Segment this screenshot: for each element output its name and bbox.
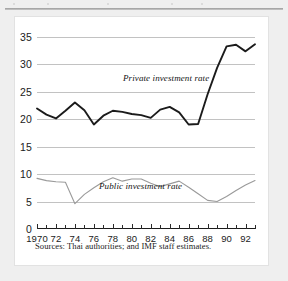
caption-remnant bbox=[4, 1, 284, 8]
series-label-private: Private investment rate bbox=[123, 73, 209, 83]
x-axis-tick bbox=[179, 225, 180, 229]
series-label-public: Public investment rate bbox=[99, 181, 182, 191]
x-axis-line bbox=[37, 228, 255, 229]
x-axis-tick bbox=[246, 224, 247, 229]
x-axis-tick bbox=[198, 225, 199, 229]
x-axis-tick bbox=[84, 225, 85, 229]
x-axis-tick bbox=[227, 224, 228, 229]
y-axis-tick-label: 30 bbox=[20, 59, 32, 70]
x-axis-tick bbox=[189, 224, 190, 229]
y-axis-tick-label: 5 bbox=[26, 196, 32, 207]
x-axis-tick bbox=[160, 225, 161, 229]
x-axis-tick bbox=[37, 224, 38, 229]
x-axis-tick bbox=[46, 225, 47, 229]
sources-note: Sources: Thai authorities; and IMF staff… bbox=[35, 241, 211, 251]
x-axis-tick bbox=[208, 224, 209, 229]
x-axis-tick bbox=[65, 225, 66, 229]
chart-series-svg bbox=[37, 31, 255, 229]
x-axis-tick bbox=[103, 225, 104, 229]
x-axis-tick bbox=[255, 225, 256, 229]
plot-area: 05101520253035 1970727476788082848688909… bbox=[37, 31, 255, 229]
series-line bbox=[37, 44, 255, 124]
x-axis-tick bbox=[236, 225, 237, 229]
y-axis-tick-label: 25 bbox=[20, 86, 32, 97]
x-axis-tick bbox=[170, 224, 171, 229]
x-axis-tick bbox=[113, 224, 114, 229]
y-axis-tick-label: 10 bbox=[20, 169, 32, 180]
x-axis-tick-label: 90 bbox=[221, 233, 232, 244]
x-axis-tick bbox=[56, 224, 57, 229]
x-axis-tick bbox=[132, 224, 133, 229]
y-axis-tick-label: 35 bbox=[20, 31, 32, 42]
x-axis-tick bbox=[122, 225, 123, 229]
x-axis-tick bbox=[141, 225, 142, 229]
chart-panel: 05101520253035 1970727476788082848688909… bbox=[14, 16, 269, 266]
x-axis-tick bbox=[75, 224, 76, 229]
x-axis-tick-label: 92 bbox=[240, 233, 251, 244]
x-axis-tick bbox=[217, 225, 218, 229]
header-rule bbox=[5, 8, 283, 10]
x-axis-tick bbox=[94, 224, 95, 229]
y-axis-tick-label: 20 bbox=[20, 114, 32, 125]
figure-root: 05101520253035 1970727476788082848688909… bbox=[0, 0, 288, 281]
x-axis-tick bbox=[151, 224, 152, 229]
y-axis-tick-label: 15 bbox=[20, 141, 32, 152]
